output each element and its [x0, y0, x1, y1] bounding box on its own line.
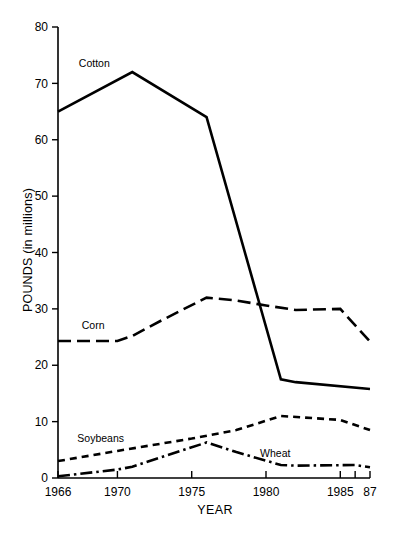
y-tick-label: 30: [35, 302, 49, 316]
y-tick-label: 10: [35, 415, 49, 429]
series-lines: [58, 72, 370, 476]
series-label-corn: Corn: [82, 319, 105, 331]
series-label-cotton: Cotton: [79, 57, 110, 69]
x-tick-label: 1985: [327, 485, 354, 499]
line-chart: 01020304050607080 1966197019751980198587…: [0, 0, 393, 535]
y-tick-label: 80: [35, 20, 49, 34]
y-axis: 01020304050607080: [35, 20, 58, 485]
y-tick-label: 50: [35, 189, 49, 203]
chart-container: 01020304050607080 1966197019751980198587…: [0, 0, 393, 535]
series-label-soybeans: Soybeans: [77, 432, 124, 444]
x-axis: 1966197019751980198587: [45, 471, 377, 499]
y-tick-label: 20: [35, 358, 49, 372]
series-label-wheat: Wheat: [260, 447, 290, 459]
x-tick-label: 1980: [253, 485, 280, 499]
y-tick-label: 40: [35, 246, 49, 260]
y-axis-ticks: 01020304050607080: [35, 20, 58, 485]
x-tick-label: 1970: [104, 485, 131, 499]
series-inline-labels: CottonCornSoybeansWheat: [77, 57, 290, 459]
y-tick-label: 60: [35, 133, 49, 147]
x-tick-label: 1966: [45, 485, 72, 499]
y-axis-title: POUNDS (in millions): [21, 150, 35, 350]
series-line-wheat: [58, 442, 370, 476]
x-tick-label: 87: [363, 485, 377, 499]
series-line-corn: [58, 298, 370, 342]
y-tick-label: 0: [41, 471, 48, 485]
x-tick-label: 1975: [178, 485, 205, 499]
x-axis-ticks: 1966197019751980198587: [45, 471, 377, 499]
x-axis-title: YEAR: [150, 503, 280, 517]
y-tick-label: 70: [35, 77, 49, 91]
